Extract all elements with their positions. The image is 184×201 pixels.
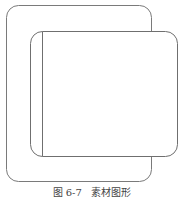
caption-number: 图 6-7 (53, 187, 82, 198)
figure-caption: 图 6-7 素材图形 (0, 186, 184, 199)
inner-rounded-rectangle (31, 32, 178, 157)
figure-canvas (0, 0, 184, 184)
caption-title: 素材图形 (91, 187, 131, 198)
